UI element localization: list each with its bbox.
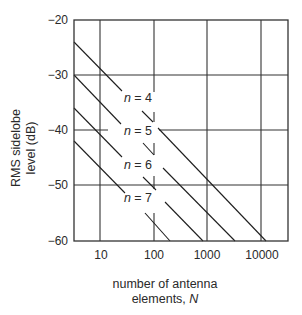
gridlines [74, 20, 288, 241]
series-label-n5: n = 5 [124, 124, 152, 138]
y-tick-label: −40 [48, 123, 69, 137]
x-axis-label: number of antenna elements, N [113, 277, 218, 306]
series-n5-seg [163, 168, 235, 241]
series-label-n7: n = 7 [124, 191, 152, 205]
y-tick-label: −30 [48, 68, 69, 82]
x-tick-label: 10000 [245, 248, 279, 262]
series-n6-seg [165, 202, 203, 241]
x-tick-label: 10 [94, 248, 108, 262]
series-n4-seg [142, 111, 153, 122]
x-tick-label: 1000 [194, 248, 221, 262]
y-tick-labels: −20 −30 −40 −50 −60 [48, 13, 69, 248]
series-n7 [74, 141, 170, 241]
x-axis-label-line-2: elements, N [132, 292, 200, 306]
series-n4 [74, 42, 266, 241]
y-axis-label-line-1: RMS sidelobe [9, 109, 23, 187]
y-tick-label: −20 [48, 13, 69, 27]
series-label-n4: n = 4 [124, 91, 152, 105]
series-n7-seg [145, 213, 170, 241]
x-tick-label: 100 [144, 248, 164, 262]
y-tick-label: −60 [48, 234, 69, 248]
series-n5-seg [143, 143, 154, 155]
x-axis-label-line-1: number of antenna [113, 277, 218, 291]
series-n4-seg [74, 42, 122, 91]
series-n6-seg [74, 108, 122, 157]
y-axis-label: RMS sidelobe level (dB) [9, 109, 38, 187]
rms-sidelobe-chart: RMS sidelobe level (dB) −20 −30 −40 −50 … [0, 0, 302, 315]
y-tick-label: −50 [48, 178, 69, 192]
series-label-n6: n = 6 [124, 158, 152, 172]
x-tick-labels: 10 100 1000 10000 [94, 248, 279, 262]
y-axis-label-line-2: level (dB) [24, 122, 38, 175]
